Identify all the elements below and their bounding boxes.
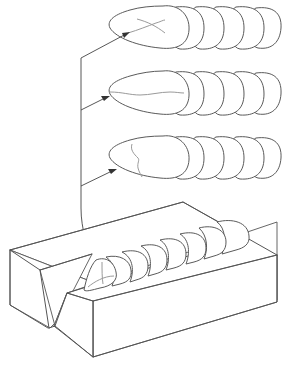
weld-crack-diagram [0,0,298,380]
arrow-head-icon [101,96,110,101]
bead-detail-crossing-crack [109,6,281,49]
bead-detail-transverse-crack [109,136,281,179]
bead-detail-longitudinal-crack [109,71,281,115]
arrow-head-icon [108,169,117,174]
v-groove-workpiece [10,202,277,357]
